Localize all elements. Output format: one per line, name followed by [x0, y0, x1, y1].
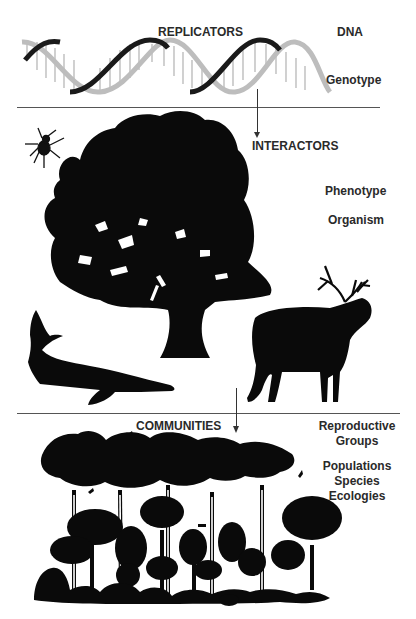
- dna-helix-illustration: [22, 40, 330, 92]
- label-populations: Populations: [312, 459, 402, 474]
- rainforest-illustration: [34, 431, 342, 606]
- label-reproductive: Reproductive: [312, 419, 402, 434]
- oak-tree-illustration: [44, 111, 271, 358]
- diagram-artwork: [0, 0, 416, 619]
- label-phenotype: Phenotype: [325, 184, 386, 198]
- spider-icon: [25, 128, 64, 168]
- heading-replicators: REPLICATORS: [158, 25, 243, 39]
- arrow-interactors-to-communities: [236, 388, 237, 428]
- heading-interactors: INTERACTORS: [252, 139, 338, 153]
- label-dna: DNA: [337, 25, 363, 39]
- communities-side-labels: Reproductive Groups Populations Species …: [312, 419, 402, 504]
- section-divider-1: [17, 107, 380, 108]
- label-organism: Organism: [328, 213, 384, 227]
- sturgeon-fish-illustration: [28, 310, 174, 405]
- label-ecologies: Ecologies: [312, 489, 402, 504]
- label-species: Species: [312, 474, 402, 489]
- section-divider-2: [17, 413, 400, 414]
- label-groups: Groups: [312, 434, 402, 449]
- arrow-replicators-to-interactors: [257, 89, 258, 134]
- heading-communities: COMMUNITIES: [136, 419, 221, 433]
- label-genotype: Genotype: [326, 73, 381, 87]
